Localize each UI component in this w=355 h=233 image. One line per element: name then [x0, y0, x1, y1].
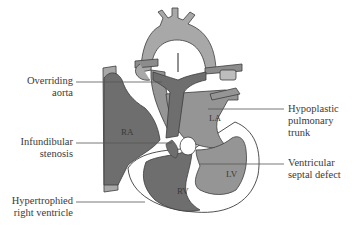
label-la: LA: [209, 112, 221, 124]
label-ventricular-septal-defect: Ventricular septal defect: [288, 157, 341, 181]
label-hypertrophied-rv: Hypertrophied right ventricle: [12, 195, 73, 219]
label-infundibular-stenosis: Infundibular stenosis: [21, 136, 74, 160]
label-lv: LV: [226, 168, 237, 180]
label-overriding-aorta: Overriding aorta: [27, 75, 73, 99]
label-rv: RV: [177, 185, 189, 197]
ventricular-septal-defect: [180, 137, 196, 155]
label-ra: RA: [121, 126, 134, 138]
aortic-arch: [135, 8, 242, 80]
label-hypoplastic-pulmonary-trunk: Hypoplastic pulmonary trunk: [288, 103, 339, 139]
